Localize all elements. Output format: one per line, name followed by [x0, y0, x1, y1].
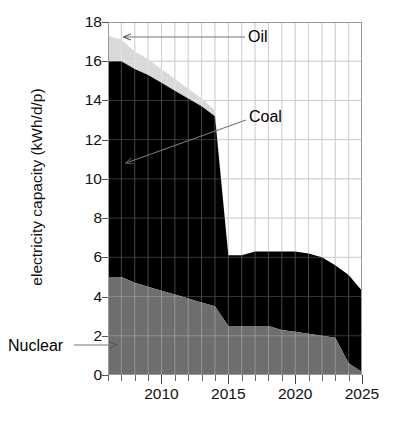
y-tick-label-18: 18 [60, 14, 102, 30]
x-tick-label-2025: 2025 [332, 386, 392, 402]
plot-area [108, 22, 362, 375]
stacked-area-svg [108, 22, 362, 375]
x-tick-mark [121, 375, 122, 381]
x-tick-mark [188, 375, 189, 381]
x-tick-mark [108, 375, 109, 381]
y-axis-title: electricity capacity (kWh/d/p) [28, 22, 46, 352]
x-tick-mark [362, 375, 363, 384]
x-tick-mark [335, 375, 336, 381]
y-tick-label-16: 16 [60, 53, 102, 69]
x-tick-mark [242, 375, 243, 381]
y-tick-label-8: 8 [60, 210, 102, 226]
nuclear-label: Nuclear [8, 338, 63, 354]
y-tick-label-2: 2 [60, 328, 102, 344]
y-tick-label-12: 12 [60, 132, 102, 148]
x-tick-mark [175, 375, 176, 381]
y-axis-ticks: 024681012141618 [56, 0, 102, 422]
y-tick-label-4: 4 [60, 289, 102, 305]
x-tick-mark [322, 375, 323, 381]
x-axis-ticks: 2010201520202025 [0, 384, 396, 408]
y-tick-label-6: 6 [60, 249, 102, 265]
x-tick-mark [282, 375, 283, 381]
x-tick-mark [148, 375, 149, 381]
x-tick-label-2010: 2010 [131, 386, 191, 402]
x-tick-label-2020: 2020 [265, 386, 325, 402]
x-tick-mark [228, 375, 229, 384]
x-tick-label-2015: 2015 [198, 386, 258, 402]
x-tick-mark [349, 375, 350, 381]
coal-label: Coal [249, 109, 282, 125]
y-tick-label-14: 14 [60, 92, 102, 108]
x-tick-mark [268, 375, 269, 381]
y-tick-label-10: 10 [60, 171, 102, 187]
oil-label: Oil [248, 29, 268, 45]
x-tick-mark [135, 375, 136, 381]
x-tick-mark [309, 375, 310, 381]
x-tick-mark [215, 375, 216, 381]
x-tick-mark [295, 375, 296, 384]
chart-figure: electricity capacity (kWh/d/p) 024681012… [0, 0, 396, 422]
x-tick-mark [202, 375, 203, 381]
x-tick-mark [161, 375, 162, 384]
x-tick-mark [255, 375, 256, 381]
y-tick-label-0: 0 [60, 367, 102, 383]
